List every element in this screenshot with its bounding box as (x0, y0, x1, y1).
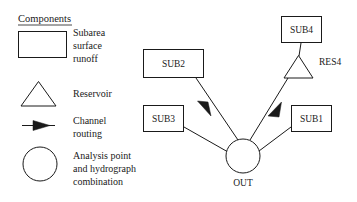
legend-entry-subarea: Subarea surface runoff (19, 27, 106, 64)
legend-entry-analysis-point: Analysis point and hydrograph combinatio… (23, 147, 136, 187)
node-sub2-label: SUB2 (162, 59, 185, 69)
link-sub4-res4 (299, 43, 301, 56)
link-sub2-out-arrowhead-icon (198, 101, 212, 116)
legend-entry-channel-line-1: Channel (73, 115, 107, 126)
node-sub1[interactable]: SUB1 (292, 106, 332, 132)
link-res4-out (250, 78, 288, 140)
legend-entry-channel-line-2: routing (73, 128, 102, 139)
node-sub4-label: SUB4 (290, 25, 313, 35)
legend-entry-reservoir: Reservoir (21, 82, 113, 107)
legend-title: Components (18, 13, 71, 24)
node-sub3[interactable]: SUB3 (144, 106, 184, 132)
node-res4-label: RES4 (319, 57, 341, 67)
legend-entry-reservoir-line-1: Reservoir (73, 88, 113, 99)
node-res4[interactable]: RES4 (284, 56, 341, 79)
node-out-circle[interactable] (226, 139, 260, 173)
node-sub4[interactable]: SUB4 (282, 17, 322, 43)
legend-entry-analysis-line-3: combination (73, 176, 123, 187)
network-diagram: SUB2 SUB3 SUB4 SUB1 RES4 (144, 17, 342, 189)
reservoir-triangle-icon (21, 82, 56, 107)
diagram-canvas: Components Subarea surface runoff Reserv… (0, 0, 357, 202)
legend: Components Subarea surface runoff Reserv… (18, 13, 136, 187)
channel-routing-arrow-icon (33, 121, 50, 131)
node-sub3-label: SUB3 (152, 114, 175, 124)
subarea-rectangle-icon (19, 32, 67, 58)
link-res4-out-arrowhead-icon (268, 102, 282, 117)
analysis-point-circle-icon (23, 147, 57, 181)
legend-entry-subarea-line-2: surface (73, 40, 102, 51)
node-out[interactable]: OUT (226, 139, 260, 188)
node-sub2[interactable]: SUB2 (144, 50, 204, 78)
legend-entry-analysis-line-2: and hydrograph (73, 163, 136, 174)
node-sub1-label: SUB1 (300, 114, 323, 124)
link-sub3-out (184, 127, 228, 152)
node-res4-triangle[interactable] (284, 56, 313, 79)
legend-entry-channel: Channel routing (22, 115, 107, 139)
node-out-label: OUT (233, 178, 253, 188)
link-sub2-out (196, 78, 238, 140)
link-sub1-out (259, 127, 291, 151)
legend-entry-subarea-line-1: Subarea (73, 27, 106, 38)
legend-entry-subarea-line-3: runoff (73, 53, 98, 64)
legend-entry-analysis-line-1: Analysis point (73, 150, 131, 161)
